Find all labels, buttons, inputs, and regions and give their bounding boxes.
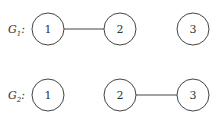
svg-text:3: 3 xyxy=(190,89,197,102)
graph-g1: G1: 1 2 3 xyxy=(8,13,209,45)
svg-text:3: 3 xyxy=(190,23,197,36)
svg-text:1: 1 xyxy=(45,23,52,36)
node-3: 3 xyxy=(177,79,209,111)
graph-g2-label: G2: xyxy=(8,89,25,104)
node-2: 2 xyxy=(104,13,136,45)
svg-text:1: 1 xyxy=(45,89,52,102)
graph-g1-label: G1: xyxy=(8,23,25,38)
node-2: 2 xyxy=(104,79,136,111)
node-1: 1 xyxy=(32,79,64,111)
node-1: 1 xyxy=(32,13,64,45)
svg-text:2: 2 xyxy=(117,23,124,36)
graph-g2: G2: 1 2 3 xyxy=(8,79,209,111)
svg-text:2: 2 xyxy=(117,89,124,102)
node-3: 3 xyxy=(177,13,209,45)
graph-diagram: G1: 1 2 3 G2: 1 2 3 xyxy=(0,0,220,119)
